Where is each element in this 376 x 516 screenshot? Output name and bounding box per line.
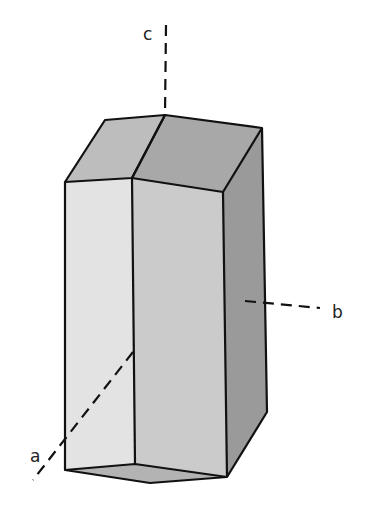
c-axis-line bbox=[165, 25, 166, 115]
c-axis-label: c bbox=[143, 24, 152, 44]
b-axis-label: b bbox=[332, 302, 343, 322]
a-axis-label: a bbox=[30, 446, 40, 466]
crystal-diagram: c b a bbox=[0, 0, 376, 516]
front-middle-face bbox=[132, 178, 227, 477]
